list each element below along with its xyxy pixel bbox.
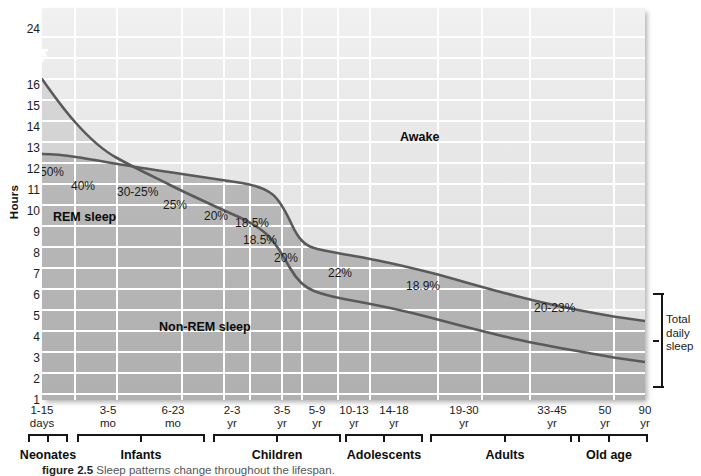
x-tick-5-line1: 3-5 xyxy=(274,404,291,416)
x-tick-6: 5-9 yr xyxy=(309,404,326,429)
rem-percent-20-a: 20% xyxy=(204,209,228,223)
y-tick-16: 16 xyxy=(14,79,40,91)
figure-caption: figure 2.5 Sleep patterns change through… xyxy=(42,464,682,476)
x-tick-3-line1: 6-23 xyxy=(161,404,184,416)
x-tick-2-line2: mo xyxy=(100,417,117,430)
x-tick-1: 1-15 days xyxy=(30,404,54,429)
rem-percent-20-b: 20% xyxy=(274,251,298,265)
y-tick-3: 3 xyxy=(14,352,40,364)
rem-percent-18-9: 18.9% xyxy=(406,279,440,293)
rem-percent-18-5-b: 18.5% xyxy=(243,233,277,247)
group-label-children: Children xyxy=(252,448,303,462)
y-tick-4: 4 xyxy=(14,331,40,343)
y-tick-15: 15 xyxy=(14,100,40,112)
y-tick-7: 7 xyxy=(14,268,40,280)
non-rem-sleep-region-label: Non-REM sleep xyxy=(159,320,251,334)
rem-percent-40: 40% xyxy=(71,179,95,193)
sleep-lifespan-figure: Awake REM sleep Non-REM sleep 50% 40% 30… xyxy=(0,0,701,476)
chart-svg xyxy=(42,8,645,400)
y-tick-6: 6 xyxy=(14,289,40,301)
total-daily-sleep-line2: daily xyxy=(666,327,701,341)
x-tick-9: 19-30 yr xyxy=(449,404,478,429)
y-tick-8: 8 xyxy=(14,247,40,259)
rem-percent-50: 50% xyxy=(42,165,64,179)
x-tick-6-line2: yr xyxy=(309,417,326,430)
x-tick-8-line2: yr xyxy=(379,417,408,430)
x-tick-10: 33-45 yr xyxy=(537,404,566,429)
x-tick-10-line2: yr xyxy=(537,417,566,430)
awake-region-label: Awake xyxy=(400,130,439,144)
y-axis-title: Hours xyxy=(8,172,20,232)
x-tick-1-line2: days xyxy=(30,417,54,430)
x-tick-9-line1: 19-30 xyxy=(449,404,478,416)
total-daily-sleep-line3: sleep xyxy=(666,340,701,354)
x-tick-3-line2: mo xyxy=(161,417,184,430)
rem-percent-30-25: 30-25% xyxy=(117,185,158,199)
rem-sleep-region-label: REM sleep xyxy=(53,210,116,224)
group-label-old-age: Old age xyxy=(586,448,632,462)
x-tick-2-line1: 3-5 xyxy=(100,404,117,416)
group-bracket-infants xyxy=(77,434,205,443)
group-bracket-adults xyxy=(430,434,580,443)
y-tick-24: 24 xyxy=(14,23,40,35)
x-tick-11-line2: yr xyxy=(599,417,612,430)
group-label-adolescents: Adolescents xyxy=(347,448,421,462)
x-tick-12-line2: yr xyxy=(639,417,652,430)
rem-percent-18-5-a: 18.5% xyxy=(235,216,269,230)
x-tick-11-line1: 50 xyxy=(599,404,612,416)
x-tick-12: 90 yr xyxy=(639,404,652,429)
x-tick-4-line2: yr xyxy=(224,417,241,430)
y-tick-14: 14 xyxy=(14,121,40,133)
group-label-infants: Infants xyxy=(121,448,162,462)
x-tick-1-line1: 1-15 xyxy=(30,404,53,416)
group-bracket-neonates xyxy=(28,434,68,443)
y-tick-13: 13 xyxy=(14,142,40,154)
group-label-neonates: Neonates xyxy=(20,448,76,462)
x-tick-7-line2: yr xyxy=(339,417,368,430)
x-tick-11: 50 yr xyxy=(599,404,612,429)
rem-percent-20-23: 20-23% xyxy=(534,301,575,315)
rem-percent-25: 25% xyxy=(163,198,187,212)
x-tick-10-line1: 33-45 xyxy=(537,404,566,416)
x-tick-8: 14-18 yr xyxy=(379,404,408,429)
y-tick-5: 5 xyxy=(14,310,40,322)
total-daily-sleep-label: Total daily sleep xyxy=(666,313,701,354)
x-tick-9-line2: yr xyxy=(449,417,478,430)
y-tick-2: 2 xyxy=(14,373,40,385)
x-tick-5-line2: yr xyxy=(274,417,291,430)
x-tick-4: 2-3 yr xyxy=(224,404,241,429)
group-bracket-adolescents xyxy=(345,434,423,443)
rem-percent-22: 22% xyxy=(328,266,352,280)
figure-caption-text: Sleep patterns change throughout the lif… xyxy=(96,464,334,476)
x-tick-7-line1: 10-13 xyxy=(339,404,368,416)
group-bracket-children xyxy=(213,434,341,443)
total-daily-sleep-bracket xyxy=(652,293,664,388)
group-bracket-old-age xyxy=(570,434,648,443)
x-tick-12-line1: 90 xyxy=(639,404,652,416)
x-tick-8-line1: 14-18 xyxy=(379,404,408,416)
x-tick-4-line1: 2-3 xyxy=(224,404,241,416)
chart-plot-area: Awake REM sleep Non-REM sleep 50% 40% 30… xyxy=(42,8,645,400)
y-axis-break-icon xyxy=(36,49,48,63)
figure-caption-number: figure 2.5 xyxy=(42,464,93,476)
total-daily-sleep-line1: Total xyxy=(666,313,701,327)
x-tick-3: 6-23 mo xyxy=(161,404,184,429)
group-label-adults: Adults xyxy=(486,448,525,462)
x-tick-7: 10-13 yr xyxy=(339,404,368,429)
x-tick-5: 3-5 yr xyxy=(274,404,291,429)
x-tick-2: 3-5 mo xyxy=(100,404,117,429)
x-tick-6-line1: 5-9 xyxy=(309,404,326,416)
